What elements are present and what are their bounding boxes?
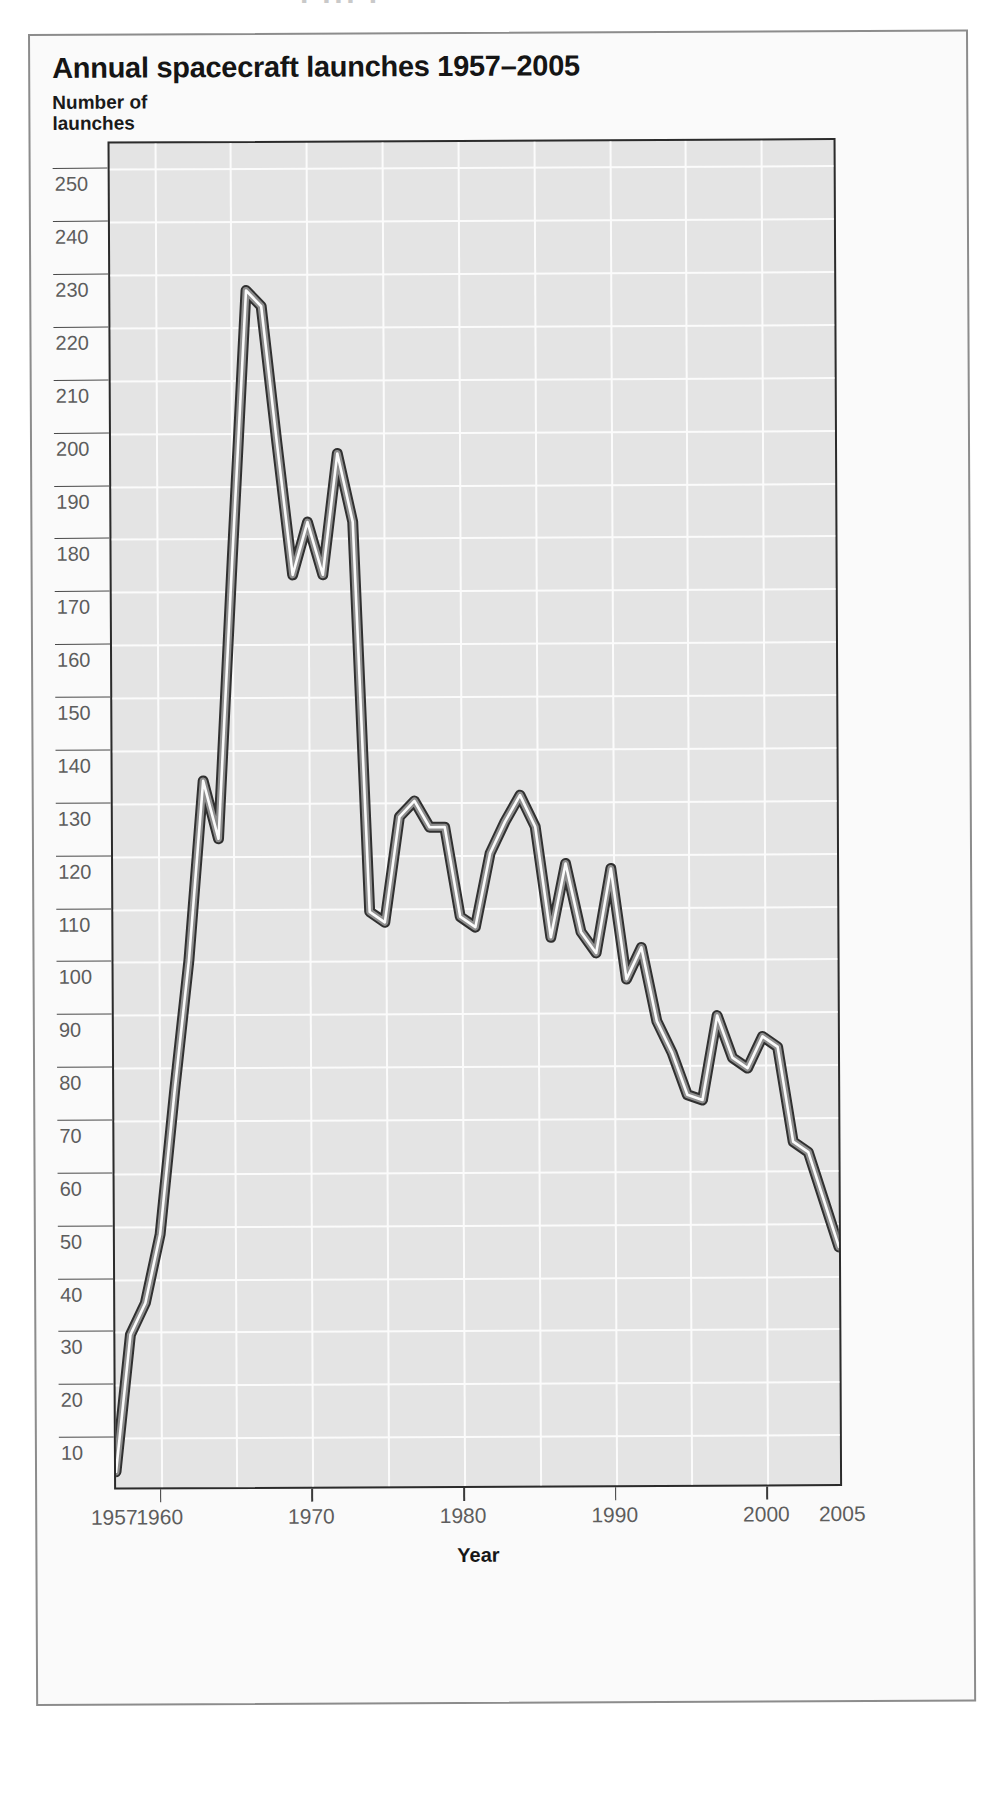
plot-wrapper: 2502402302202102001901801701601501401301… — [53, 138, 850, 1562]
page-title: Annual spacecraft launches 1957–2005 — [52, 49, 580, 85]
y-axis-tick — [59, 1437, 114, 1439]
figure-panel: Annual spacecraft launches 1957–2005 Num… — [28, 29, 976, 1706]
series-line-launches — [110, 140, 841, 1488]
y-axis-tick-label: 210 — [56, 386, 89, 406]
x-axis-tick — [463, 1488, 465, 1501]
y-axis-tick-label: 190 — [56, 491, 89, 511]
y-axis-tick — [55, 644, 110, 646]
x-axis-tick-label: 2005 — [819, 1502, 866, 1526]
y-axis-tick — [54, 538, 109, 540]
y-axis-tick — [57, 1120, 112, 1122]
y-axis-tick-label: 130 — [58, 808, 91, 828]
y-axis-title: Number of launches — [52, 91, 147, 134]
x-axis-tick-label: 2000 — [743, 1502, 790, 1526]
y-axis-tick — [55, 697, 110, 699]
y-axis-tick — [53, 221, 108, 223]
y-axis-tick — [59, 1384, 114, 1386]
x-axis-tick — [160, 1489, 162, 1502]
y-axis-tick-label: 110 — [58, 914, 90, 934]
plot-area — [108, 138, 843, 1490]
y-axis-tick-label: 60 — [60, 1179, 82, 1199]
y-axis-tick — [57, 1067, 112, 1069]
y-axis-tick-label: 70 — [59, 1126, 81, 1146]
y-axis-tick-label: 90 — [59, 1020, 81, 1040]
x-axis-tick-label: 1980 — [440, 1504, 487, 1528]
y-axis-tick-label: 140 — [58, 756, 91, 776]
y-axis-tick-label: 200 — [56, 438, 89, 458]
y-axis-tick — [56, 855, 111, 857]
page-top-remnant: · ··· · — [300, 0, 680, 10]
x-axis-tick-label: 1970 — [288, 1505, 335, 1529]
y-axis-tick-label: 20 — [61, 1390, 83, 1410]
y-axis-tick-label: 120 — [58, 861, 91, 881]
x-axis-tick — [615, 1487, 617, 1500]
y-axis-tick-label: 30 — [60, 1337, 82, 1357]
x-axis-tick-label: 1990 — [591, 1503, 638, 1527]
y-axis-tick-label: 160 — [57, 650, 90, 670]
y-axis-tick-label: 240 — [55, 227, 88, 247]
x-axis-title: Year — [114, 1542, 842, 1569]
y-axis-tick — [55, 591, 110, 593]
y-axis-tick-label: 80 — [59, 1073, 81, 1093]
y-axis-tick-label: 150 — [57, 703, 90, 723]
y-axis: 2502402302202102001901801701601501401301… — [53, 142, 115, 1490]
y-axis-tick — [54, 379, 109, 381]
y-axis-tick-label: 250 — [55, 174, 88, 194]
y-axis-tick-label: 220 — [55, 333, 88, 353]
y-axis-tick — [53, 168, 108, 170]
y-axis-tick — [58, 1278, 113, 1280]
y-axis-tick-label: 10 — [61, 1443, 83, 1463]
x-axis-tick-label: 1960 — [136, 1505, 183, 1529]
y-axis-tick — [56, 802, 111, 804]
y-axis-tick — [53, 327, 108, 329]
y-axis-tick-label: 100 — [59, 967, 92, 987]
y-axis-tick — [54, 485, 109, 487]
y-axis-tick-label: 170 — [57, 597, 90, 617]
x-axis-tick — [311, 1489, 313, 1502]
y-axis-tick-label: 40 — [60, 1284, 82, 1304]
y-axis-tick — [53, 274, 108, 276]
y-axis-tick — [58, 1331, 113, 1333]
y-axis-tick — [57, 1014, 112, 1016]
y-axis-tick — [54, 432, 109, 434]
y-axis-tick-label: 230 — [55, 280, 88, 300]
y-axis-tick — [55, 750, 110, 752]
x-axis-tick-label: 1957 — [91, 1505, 138, 1529]
y-axis-tick — [58, 1225, 113, 1227]
y-axis-tick-label: 180 — [56, 544, 89, 564]
y-axis-tick — [58, 1172, 113, 1174]
y-axis-tick — [57, 961, 112, 963]
y-axis-tick-label: 50 — [60, 1231, 82, 1251]
x-axis-tick — [766, 1486, 768, 1499]
y-axis-tick — [56, 908, 111, 910]
